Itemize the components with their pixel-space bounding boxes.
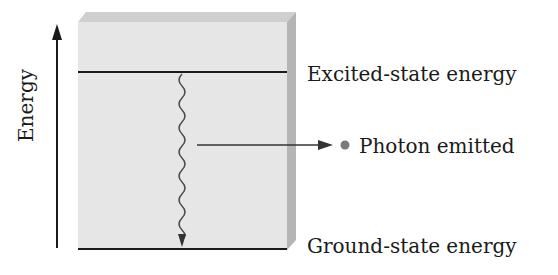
box-side-face [287,12,296,250]
excited-state-label: Excited-state energy [307,64,517,84]
energy-diagram: Energy Excited-state energy Photon emitt… [0,0,558,275]
box-front-face [78,22,287,250]
ground-state-label: Ground-state energy [307,236,517,256]
photon-dot-icon [341,141,350,150]
photon-emitted-label: Photon emitted [359,136,515,156]
energy-axis-label: Energy [16,69,36,142]
energy-axis-arrow-icon [52,24,62,248]
box-top-face [78,12,296,22]
